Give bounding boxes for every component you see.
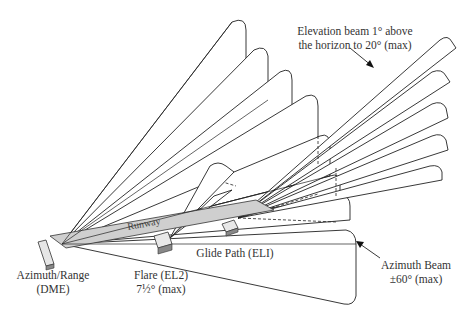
azimuth-range-station bbox=[38, 240, 54, 270]
azimuth-beam-label: Azimuth Beam ±60° (max) bbox=[376, 258, 456, 286]
flare-label: Flare (EL2) 7½° (max) bbox=[126, 268, 196, 296]
elevation-beam-label: Elevation beam 1° above the horizon to 2… bbox=[270, 24, 440, 52]
arrow-elevation-icon bbox=[366, 60, 374, 68]
arrow-azimuth-icon bbox=[356, 241, 364, 248]
glide-path-label: Glide Path (ELI) bbox=[190, 246, 280, 260]
azimuth-range-label: Azimuth/Range (DME) bbox=[8, 268, 98, 296]
